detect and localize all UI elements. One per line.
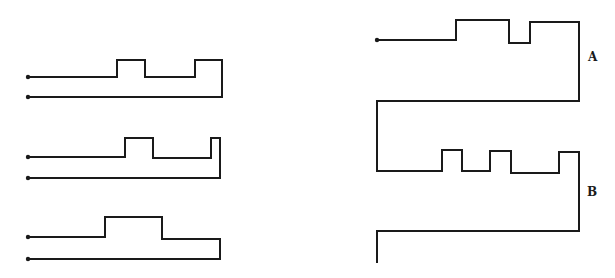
endpoint-dot: [26, 95, 30, 99]
key-profile-B: [377, 150, 579, 262]
key-profile-2: [26, 138, 220, 180]
label-B: B: [587, 185, 597, 199]
endpoint-dot: [26, 235, 30, 239]
profile-line: [28, 60, 222, 97]
profile-line: [377, 150, 579, 262]
profile-line: [28, 138, 220, 178]
key-profile-3: [26, 217, 220, 261]
label-A: A: [588, 50, 597, 64]
endpoint-dot: [375, 38, 379, 42]
profile-line: [377, 20, 579, 171]
profile-line: [28, 217, 220, 259]
key-profile-1: [26, 60, 222, 99]
diagram-canvas: [0, 0, 615, 278]
endpoint-dot: [26, 176, 30, 180]
endpoint-dot: [26, 75, 30, 79]
endpoint-dot: [26, 155, 30, 159]
endpoint-dot: [26, 257, 30, 261]
key-profile-A: [375, 20, 579, 171]
